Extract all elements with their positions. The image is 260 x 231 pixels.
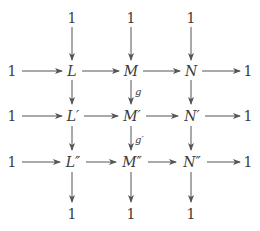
- node-r1-1-left: 1: [8, 64, 17, 78]
- node-M-prime: M′: [123, 109, 141, 123]
- node-r2-1-right: 1: [244, 109, 253, 123]
- node-L: L: [67, 64, 76, 78]
- node-M: M: [124, 64, 138, 78]
- node-bottom-1-right: 1: [187, 207, 196, 221]
- node-top-1-left: 1: [68, 11, 77, 25]
- node-r2-1-left: 1: [8, 109, 17, 123]
- node-L-prime: L′: [67, 109, 79, 123]
- node-r3-1-right: 1: [244, 155, 253, 169]
- node-N: N: [185, 64, 197, 78]
- node-top-1-mid: 1: [127, 11, 136, 25]
- node-bottom-1-mid: 1: [127, 207, 136, 221]
- node-L-double-prime: L″: [66, 155, 81, 169]
- node-r1-1-right: 1: [244, 64, 253, 78]
- node-N-double-prime: N″: [183, 155, 200, 169]
- node-r3-1-left: 1: [8, 155, 17, 169]
- node-bottom-1-left: 1: [68, 207, 77, 221]
- label-g-prime: g′: [135, 134, 144, 145]
- node-M-double-prime: M″: [122, 155, 142, 169]
- node-top-1-right: 1: [187, 11, 196, 25]
- node-N-prime: N′: [184, 109, 199, 123]
- label-g: g: [135, 86, 141, 97]
